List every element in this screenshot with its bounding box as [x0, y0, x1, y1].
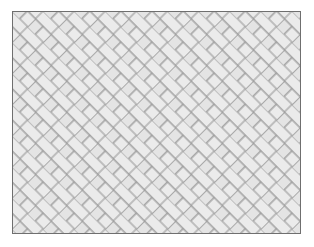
pattern-fill-area — [12, 11, 301, 234]
pattern-panel — [12, 11, 301, 234]
image-canvas — [0, 0, 314, 247]
herringbone-pattern-svg — [12, 11, 301, 234]
